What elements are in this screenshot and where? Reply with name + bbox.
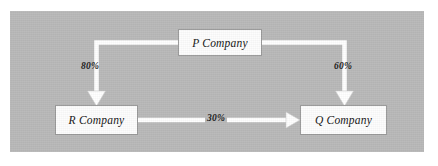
edge-p-to-q xyxy=(262,43,354,107)
node-r-company-label: R Company xyxy=(69,114,125,126)
edge-label-p-to-r: 80% xyxy=(81,61,99,71)
edge-p-to-r xyxy=(88,43,179,107)
node-q-company[interactable]: Q Company xyxy=(300,105,387,135)
node-r-company[interactable]: R Company xyxy=(55,105,138,135)
node-p-company[interactable]: P Company xyxy=(178,29,262,56)
node-q-company-label: Q Company xyxy=(315,114,372,126)
edge-label-r-to-q: 30% xyxy=(205,113,227,123)
node-p-company-label: P Company xyxy=(192,37,248,49)
edge-label-p-to-q: 60% xyxy=(334,61,352,71)
figure-screenshot: P Company R Company Q Company 80% 60% 30… xyxy=(0,0,438,166)
diagram-panel: P Company R Company Q Company 80% 60% 30… xyxy=(10,11,424,152)
